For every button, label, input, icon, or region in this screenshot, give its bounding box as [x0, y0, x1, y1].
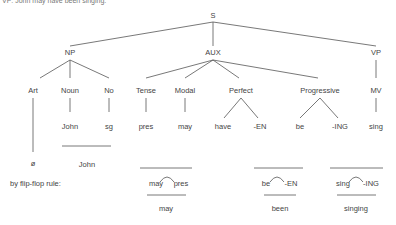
node-np: NP — [65, 49, 75, 57]
leaf-have: have — [215, 123, 231, 131]
ff3-right: -ING — [363, 180, 379, 188]
tree-lines — [0, 0, 396, 225]
ff3-result: singing — [344, 205, 368, 213]
node-s: S — [210, 12, 215, 20]
node-tense: Tense — [136, 87, 156, 95]
leaf-may: may — [178, 123, 192, 131]
node-mv: MV — [370, 87, 381, 95]
node-art: Art — [28, 87, 38, 95]
ff3-left: sing — [336, 180, 350, 188]
node-noun: Noun — [61, 87, 79, 95]
leaf-ing: -ING — [332, 123, 348, 131]
leaf-null: ø — [31, 160, 36, 168]
ff2-right: -EN — [285, 180, 298, 188]
flip-flop-label: by flip-flop rule: — [10, 179, 61, 188]
node-no: No — [104, 87, 114, 95]
ff1-result: may — [159, 205, 173, 213]
ff1-left: may — [149, 180, 163, 188]
node-aux: AUX — [205, 49, 220, 57]
ff2-result: been — [272, 205, 289, 213]
leaf-en: -EN — [254, 123, 267, 131]
leaf-pres: pres — [139, 123, 154, 131]
node-perfect: Perfect — [229, 87, 253, 95]
node-vp: VP — [371, 49, 381, 57]
leaf-sg: sg — [105, 123, 113, 131]
ff2-left: be — [262, 180, 270, 188]
leaf-sing: sing — [369, 123, 383, 131]
ff1-right: pres — [174, 180, 189, 188]
node-modal: Modal — [175, 87, 195, 95]
leaf-be: be — [296, 123, 304, 131]
leaf-john: John — [62, 123, 78, 131]
john-result: John — [79, 161, 95, 169]
node-progressive: Progressive — [300, 87, 340, 95]
